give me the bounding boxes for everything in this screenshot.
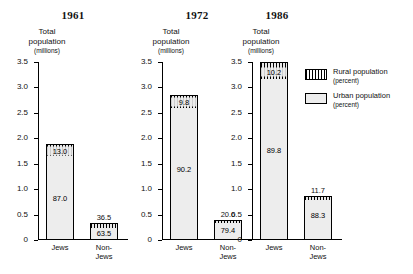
y-axis-title-line1: Total (132, 27, 210, 37)
bar-segment-urban: 63.5 (91, 228, 117, 239)
y-axis-title: Total population (millions) (8, 27, 86, 56)
category-label: Non- Jews (305, 243, 331, 261)
urban-percent-label: 89.8 (261, 146, 287, 155)
y-tick: 2.5 (158, 113, 162, 114)
y-axis-title-line3: (millions) (132, 46, 210, 56)
rural-percent-label: 36.5 (91, 213, 117, 222)
legend-label-urban-line1: Urban population (333, 92, 390, 101)
y-tick: 1.0 (34, 189, 38, 190)
chart-legend: Rural population (percent) Urban populat… (305, 68, 411, 116)
y-axis-title-line1: Total (8, 27, 86, 37)
y-axis-title-line3: (millions) (8, 46, 86, 56)
y-tick-label: 3.0 (231, 82, 242, 91)
urban-percent-label: 63.5 (91, 229, 117, 238)
category-label-line1: Non- (91, 243, 117, 252)
legend-item-urban: Urban population (percent) (305, 92, 411, 109)
y-tick: 2.0 (248, 138, 252, 139)
category-label-line2: Jews (305, 252, 331, 261)
y-tick: 2.5 (34, 113, 38, 114)
y-tick-label: 1.5 (141, 159, 152, 168)
category-label: Jews (47, 243, 73, 252)
bar-jews: 10.2 89.8 Jews (260, 62, 288, 240)
y-tick-label: 3.5 (141, 57, 152, 66)
legend-item-rural: Rural population (percent) (305, 68, 411, 85)
category-label-line1: Non- (305, 243, 331, 252)
panel-year-title: 1986 (216, 9, 338, 21)
y-tick: 0.5 (34, 215, 38, 216)
chart-figure: 1961 Total population (millions) 3.5 3.0… (0, 0, 413, 274)
y-tick-label: 1.0 (141, 184, 152, 193)
y-axis-title: Total population (millions) (132, 27, 210, 56)
urban-swatch-icon (305, 93, 327, 104)
category-label-line1: Jews (261, 243, 287, 252)
y-tick-label: 2.0 (231, 133, 242, 142)
y-tick-label: 3.5 (231, 57, 242, 66)
legend-label-rural: Rural population (percent) (333, 68, 388, 85)
chart-panel-1986: 1986 Total population (millions) 3.5 3.0… (222, 0, 344, 274)
y-axis-line (38, 62, 39, 240)
y-tick-label: 0.5 (141, 210, 152, 219)
urban-percent-label: 88.3 (305, 211, 331, 220)
bar-jews: 9.8 90.2 Jews (170, 95, 198, 241)
legend-label-urban: Urban population (percent) (333, 92, 390, 109)
y-tick: 3.5 (34, 62, 38, 63)
y-tick: 0.5 (158, 215, 162, 216)
bar-jews: 13.0 87.0 Jews (46, 144, 74, 240)
bar-segment-urban: 89.8 (261, 79, 287, 239)
y-axis-title: Total population (millions) (222, 27, 300, 56)
bar-non-jews: 11.7 88.3 Non- Jews (304, 196, 332, 240)
y-tick: 2.0 (158, 138, 162, 139)
y-tick: 1.5 (34, 164, 38, 165)
legend-label-rural-line1: Rural population (333, 68, 388, 77)
y-tick: 0.5 (248, 215, 252, 216)
y-tick: 1.0 (158, 189, 162, 190)
y-tick-label: 0 (24, 235, 28, 244)
y-tick: 2.5 (248, 113, 252, 114)
y-axis-title-line1: Total (222, 27, 300, 37)
y-tick-label: 3.0 (141, 82, 152, 91)
legend-label-urban-line2: (percent) (333, 101, 390, 110)
y-tick-label: 3.5 (17, 57, 28, 66)
y-tick: 3.5 (158, 62, 162, 63)
y-tick-label: 2.5 (17, 108, 28, 117)
category-label: Jews (261, 243, 287, 252)
bar-non-jews: 36.5 63.5 Non- Jews (90, 223, 118, 240)
y-tick: 1.5 (248, 164, 252, 165)
y-tick: 2.0 (34, 138, 38, 139)
category-label-line2: Jews (91, 252, 117, 261)
rural-percent-label: 11.7 (305, 186, 331, 195)
y-tick-label: 0 (148, 235, 152, 244)
y-tick: 0 (158, 240, 162, 241)
y-tick-label: 2.5 (141, 108, 152, 117)
y-tick-label: 1.0 (231, 184, 242, 193)
bar-segment-urban: 90.2 (171, 108, 197, 239)
rural-percent-label: 9.8 (171, 98, 197, 107)
y-tick: 1.0 (248, 189, 252, 190)
rural-percent-label: 10.2 (261, 67, 287, 76)
category-label-line1: Jews (47, 243, 73, 252)
y-tick: 3.5 (248, 62, 252, 63)
bar-segment-urban: 88.3 (305, 200, 331, 239)
category-label: Jews (171, 243, 197, 252)
y-tick: 0 (34, 240, 38, 241)
y-tick-label: 0 (238, 235, 242, 244)
y-tick-label: 1.0 (17, 184, 28, 193)
y-tick: 0 (248, 240, 252, 241)
y-tick-label: 3.0 (17, 82, 28, 91)
y-tick-label: 2.0 (17, 133, 28, 142)
category-label: Non- Jews (91, 243, 117, 261)
rural-swatch-icon (305, 69, 327, 80)
plot-area: 3.5 3.0 2.5 2.0 1.5 1.0 0.5 0 13.0 87.0 … (38, 62, 128, 240)
y-axis-line (162, 62, 163, 240)
panel-year-title: 1961 (12, 9, 134, 21)
y-tick: 1.5 (158, 164, 162, 165)
y-axis-title-line2: population (8, 37, 86, 47)
legend-label-rural-line2: (percent) (333, 77, 388, 86)
y-axis-title-line2: population (132, 37, 210, 47)
chart-panel-1961: 1961 Total population (millions) 3.5 3.0… (8, 0, 130, 274)
urban-percent-label: 87.0 (47, 194, 73, 203)
y-tick-label: 0.5 (231, 210, 242, 219)
y-tick-label: 1.5 (17, 159, 28, 168)
y-tick-label: 2.0 (141, 133, 152, 142)
y-tick: 3.0 (34, 87, 38, 88)
